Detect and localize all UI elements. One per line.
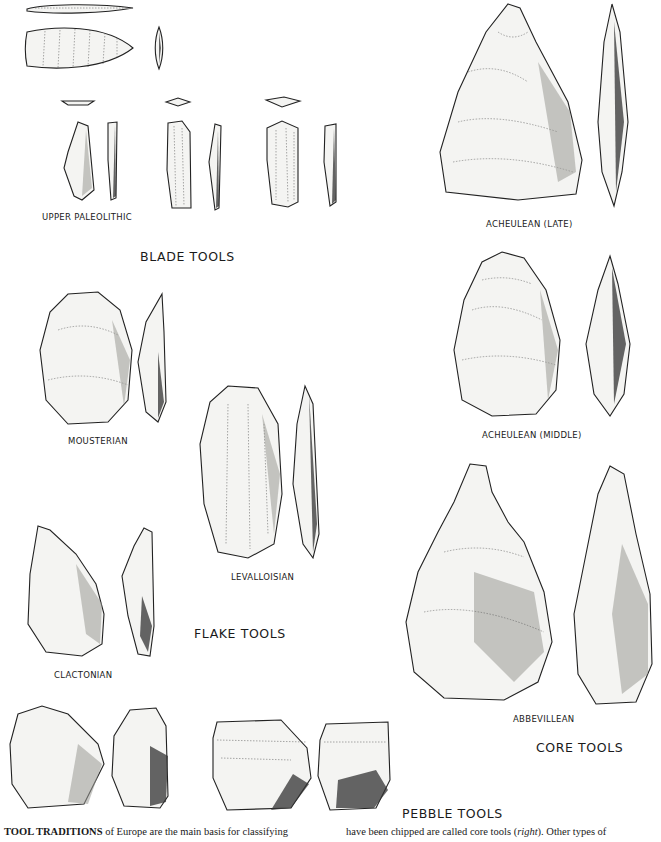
solutrean-point-side-view — [152, 26, 166, 70]
levalloisian-side — [291, 384, 323, 560]
blade-3-cross-section — [264, 96, 302, 108]
group-title-blade-tools: BLADE TOOLS — [140, 249, 235, 264]
pebble-tool-1-side — [110, 706, 172, 810]
clactonian-face — [26, 524, 108, 658]
caption-lead: TOOL TRADITIONS — [4, 826, 103, 837]
caption-left-text: of Europe are the main basis for classif… — [103, 826, 288, 837]
abbevillean-side — [572, 464, 656, 708]
blade-3-face — [264, 120, 302, 208]
label-abbevillean: ABBEVILLEAN — [513, 714, 574, 724]
blade-1-side — [104, 120, 120, 202]
acheulean-middle-face — [452, 250, 564, 418]
group-title-core-tools: CORE TOOLS — [536, 740, 623, 755]
pebble-tool-2-side — [316, 720, 392, 810]
clactonian-side — [120, 526, 156, 658]
levalloisian-face — [198, 384, 284, 560]
blade-1-cross-section — [60, 98, 96, 106]
mousterian-face — [38, 290, 134, 426]
group-title-flake-tools: FLAKE TOOLS — [194, 626, 286, 641]
acheulean-late-side — [596, 2, 630, 208]
pebble-tool-2-face — [211, 718, 311, 810]
pebble-tool-1-face — [8, 704, 102, 808]
label-mousterian: MOUSTERIAN — [68, 436, 128, 446]
label-clactonian: CLACTONIAN — [54, 670, 112, 680]
caption-left-column: TOOL TRADITIONS of Europe are the main b… — [4, 826, 288, 837]
label-levalloisian: LEVALLOISIAN — [231, 572, 294, 582]
blade-2-face — [164, 120, 194, 210]
caption-right-post: ). Other types of — [538, 826, 607, 837]
solutrean-point-face — [25, 26, 137, 72]
label-acheulean-late: ACHEULEAN (LATE) — [486, 219, 573, 229]
caption-right-pre: have been chipped are called core tools … — [346, 826, 517, 837]
mousterian-side — [136, 292, 168, 424]
blade-2-side — [205, 122, 223, 212]
blade-2-cross-section — [164, 97, 192, 107]
blade-1-face — [60, 120, 96, 202]
acheulean-middle-side — [584, 254, 632, 418]
solutrean-point-edge-view — [25, 2, 135, 16]
label-acheulean-middle: ACHEULEAN (MIDDLE) — [482, 430, 582, 440]
caption-right-italic: right — [517, 826, 537, 837]
caption-right-column: have been chipped are called core tools … — [346, 826, 606, 837]
abbevillean-face — [404, 462, 554, 702]
acheulean-late-face — [438, 2, 588, 202]
group-title-pebble-tools: PEBBLE TOOLS — [402, 806, 503, 821]
label-upper-paleolithic: UPPER PALEOLITHIC — [42, 212, 132, 222]
blade-3-side — [320, 122, 340, 208]
